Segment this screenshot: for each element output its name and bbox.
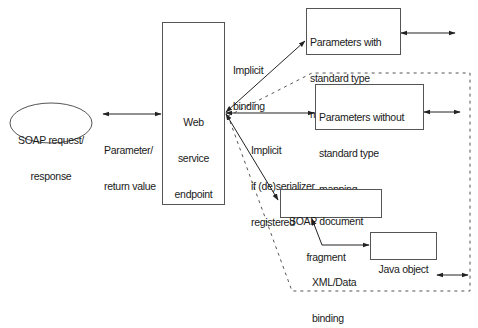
java-object-label: Java object <box>370 239 437 287</box>
soap-request-line1: SOAP request/ <box>16 134 86 146</box>
params-standard-line1: Parameters with <box>310 36 381 48</box>
soap-request-line2: response <box>16 170 86 182</box>
endpoint-line3: endpoint <box>162 188 225 200</box>
implicit-serializer-line1: Implicit <box>251 144 315 156</box>
params-standard-line2: standard type <box>310 72 381 84</box>
implicit-binding-line2: binding <box>233 100 265 112</box>
param-line2: return value <box>104 180 156 192</box>
implicit-binding-line1: Implicit <box>233 64 265 76</box>
params-nonstandard-line2: standard type <box>319 147 404 159</box>
param-line1: Parameter/ <box>104 144 156 156</box>
implicit-binding-label: Implicit binding <box>233 40 265 124</box>
endpoint-label: Web service endpoint <box>162 92 225 212</box>
xml-binding-line1: XML/Data <box>312 276 356 288</box>
parameter-return-label: Parameter/ return value <box>104 120 156 204</box>
xml-data-binding-label: XML/Data binding <box>312 252 356 328</box>
params-nonstandard-line1: Parameters without <box>319 111 404 123</box>
xml-binding-line2: binding <box>312 312 356 324</box>
soap-fragment-line1: SOAP document <box>280 215 372 227</box>
java-object-line1: Java object <box>370 263 437 275</box>
soap-request-label: SOAP request/ response <box>16 110 86 194</box>
endpoint-line1: Web <box>162 116 225 128</box>
endpoint-line2: service <box>162 152 225 164</box>
